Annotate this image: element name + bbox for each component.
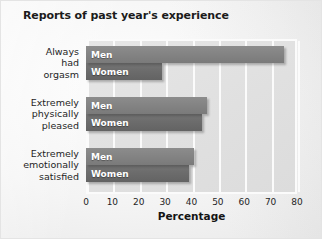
category-label-line: emotionally bbox=[7, 159, 79, 170]
category-label-line: orgasm bbox=[7, 69, 79, 80]
gridline-60 bbox=[245, 41, 247, 192]
bar-series-label-men: Men bbox=[91, 50, 112, 60]
gridline-70 bbox=[272, 41, 274, 192]
x-tick-label-50: 50 bbox=[212, 197, 223, 207]
bar-series-label-men: Men bbox=[91, 152, 112, 162]
chart-figure: Reports of past year's experience Always… bbox=[0, 0, 322, 239]
x-tick-label-10: 10 bbox=[107, 197, 118, 207]
category-label-line: had bbox=[7, 57, 79, 68]
gridline-80 bbox=[298, 41, 300, 192]
chart-title: Reports of past year's experience bbox=[23, 9, 229, 22]
gridline-50 bbox=[219, 41, 221, 192]
bar-series-label-men: Men bbox=[91, 101, 112, 111]
category-label-line: pleased bbox=[7, 120, 79, 131]
bar-series-label-women: Women bbox=[91, 118, 129, 128]
category-label-line: Extremely bbox=[7, 97, 79, 108]
x-tick-label-70: 70 bbox=[265, 197, 276, 207]
bar-men-0[interactable]: Men bbox=[86, 46, 284, 63]
category-label-line: satisfied bbox=[7, 171, 79, 182]
x-axis-title: Percentage bbox=[86, 210, 297, 222]
x-tick-label-80: 80 bbox=[291, 197, 302, 207]
category-label-2: Extremelyemotionallysatisfied bbox=[7, 148, 79, 182]
bar-women-1[interactable]: Women bbox=[86, 114, 202, 131]
category-label-line: physically bbox=[7, 108, 79, 119]
bar-series-label-women: Women bbox=[91, 67, 129, 77]
bar-series-label-women: Women bbox=[91, 169, 129, 179]
x-tick-label-60: 60 bbox=[239, 197, 250, 207]
x-tick-label-40: 40 bbox=[186, 197, 197, 207]
bar-women-0[interactable]: Women bbox=[86, 63, 162, 80]
x-tick-label-0: 0 bbox=[83, 197, 89, 207]
x-axis-tick-labels: 01020304050607080 bbox=[86, 197, 297, 210]
category-label-line: Always bbox=[7, 46, 79, 57]
bar-men-1[interactable]: Men bbox=[86, 97, 207, 114]
category-label-line: Extremely bbox=[7, 148, 79, 159]
bar-women-2[interactable]: Women bbox=[86, 165, 189, 182]
category-axis-labels: AlwayshadorgasmExtremelyphysicallyplease… bbox=[7, 39, 83, 194]
bar-men-2[interactable]: Men bbox=[86, 148, 194, 165]
x-tick-label-20: 20 bbox=[133, 197, 144, 207]
category-label-1: Extremelyphysicallypleased bbox=[7, 97, 79, 131]
x-tick-label-30: 30 bbox=[159, 197, 170, 207]
category-label-0: Alwayshadorgasm bbox=[7, 46, 79, 80]
